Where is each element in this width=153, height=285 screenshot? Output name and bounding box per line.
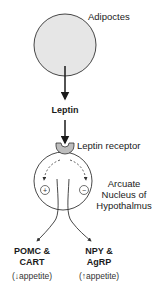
npy-label: NPY & AgRP [77, 246, 121, 268]
hypothalamus-cell [34, 152, 92, 210]
pomc-line2: CART [10, 257, 54, 268]
adipocytes-label: Adipoctes [88, 11, 130, 22]
arcuate-line1: Arcuate [95, 178, 153, 189]
npy-effect: (↑appetite) [73, 271, 125, 282]
pomc-effect: (↓appetite) [6, 271, 58, 282]
pomc-label: POMC & CART [10, 246, 54, 268]
leptin-receptor-label: Leptin receptor [77, 140, 140, 151]
npy-line2: AgRP [77, 257, 121, 268]
arcuate-line3: Hypothalmus [95, 200, 153, 211]
arcuate-label: Arcuate Nucleus of Hypothalmus [95, 178, 153, 211]
leptin-label: Leptin [50, 105, 80, 116]
pomc-line1: POMC & [10, 246, 54, 257]
npy-line1: NPY & [77, 246, 121, 257]
plus-symbol: + [43, 187, 47, 194]
minus-symbol: − [82, 187, 86, 194]
arcuate-line2: Nucleus of [95, 189, 153, 200]
